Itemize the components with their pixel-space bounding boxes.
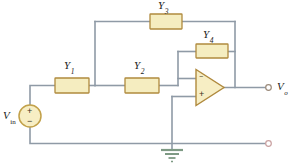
admittance-y2-letter: Y <box>134 59 140 71</box>
admittance-y2-label: Y2 <box>134 60 144 74</box>
source-label: Vin <box>3 110 15 124</box>
admittance-y2-box[interactable] <box>125 78 159 93</box>
ground-symbol <box>161 150 183 162</box>
source-letter: V <box>3 109 10 121</box>
output-letter: V <box>277 80 284 92</box>
output-label: Vo <box>277 81 287 95</box>
wire-source-to-y1 <box>30 86 55 106</box>
source-subscript: in <box>10 118 15 126</box>
output-terminal-positive[interactable] <box>266 85 272 91</box>
admittance-y3-box[interactable] <box>150 14 182 29</box>
circuit-diagram: Y1 Y2 Y3 Y4 Vin Vo + − − + <box>0 0 294 168</box>
circuit-schematic-canvas <box>0 0 294 168</box>
admittance-y3-label: Y3 <box>158 0 168 14</box>
admittance-y3-letter: Y <box>158 0 164 11</box>
wire-bottom-rail <box>30 127 266 144</box>
source-plus-sign: + <box>27 107 32 116</box>
admittance-y1-box[interactable] <box>55 78 89 93</box>
admittance-y1-subscript: 1 <box>71 67 75 76</box>
output-terminal-negative[interactable] <box>266 141 272 147</box>
admittance-y4-label: Y4 <box>203 29 213 43</box>
source-minus-sign: − <box>27 117 32 126</box>
admittance-y1-letter: Y <box>64 59 70 71</box>
admittance-y2-subscript: 2 <box>141 67 145 76</box>
admittance-y4-box[interactable] <box>196 44 228 58</box>
admittance-y4-letter: Y <box>203 28 209 40</box>
admittance-y3-subscript: 3 <box>165 7 169 16</box>
admittance-y1-label: Y1 <box>64 60 74 74</box>
admittance-y4-subscript: 4 <box>210 36 214 45</box>
output-subscript: o <box>284 89 288 97</box>
opamp-inverting-sign: − <box>199 73 203 80</box>
opamp-noninverting-sign: + <box>199 90 204 99</box>
